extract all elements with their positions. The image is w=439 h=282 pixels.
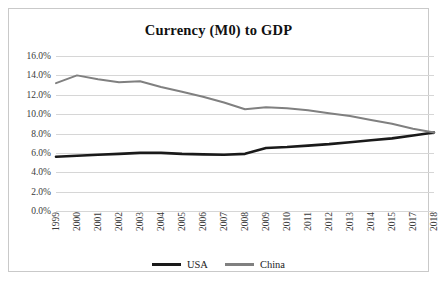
legend-item-china[interactable]: China	[225, 259, 285, 270]
legend-item-usa[interactable]: USA	[152, 259, 208, 270]
x-axis-tick-label: 2012	[324, 212, 334, 231]
legend-line-icon	[225, 263, 254, 266]
x-axis-tick-label: 2005	[177, 212, 187, 231]
x-axis-tick-label: 2007	[219, 212, 229, 231]
chart-frame: Currency (M0) to GDP 16.0%14.0%12.0%10.0…	[8, 8, 429, 272]
y-axis-tick-label: 0.0%	[31, 206, 51, 216]
chart-title: Currency (M0) to GDP	[9, 22, 428, 39]
y-axis-tick-label: 8.0%	[31, 129, 51, 139]
series-lines	[56, 56, 434, 211]
x-axis-tick-label: 2008	[240, 212, 250, 231]
x-axis-tick-label: 2009	[261, 212, 271, 231]
series-line-china	[56, 75, 434, 132]
legend-label: China	[260, 259, 285, 270]
x-axis-tick-label: 2017	[408, 212, 418, 231]
legend-line-icon	[152, 263, 181, 266]
plot-area: 16.0%14.0%12.0%10.0%8.0%6.0%4.0%2.0%0.0%	[56, 56, 434, 211]
legend-label: USA	[187, 259, 208, 270]
chart-legend: USAChina	[9, 259, 428, 270]
x-axis-tick-label: 2013	[345, 212, 355, 231]
y-axis-tick-label: 2.0%	[31, 187, 51, 197]
y-axis-tick-label: 14.0%	[26, 70, 51, 80]
x-axis-tick-label: 1999	[51, 212, 61, 231]
x-axis-tick-label: 2015	[387, 212, 397, 231]
x-axis-labels: 1999200020012002200320042005200620072008…	[56, 212, 434, 257]
y-axis-tick-label: 6.0%	[31, 148, 51, 158]
x-axis-tick-label: 2011	[303, 212, 313, 231]
x-axis-tick-label: 2018	[429, 212, 439, 231]
y-axis-tick-label: 10.0%	[26, 109, 51, 119]
x-axis-tick-label: 2000	[72, 212, 82, 231]
x-axis-tick-label: 2004	[156, 212, 166, 231]
chart-screenshot: Currency (M0) to GDP 16.0%14.0%12.0%10.0…	[0, 0, 439, 282]
x-axis-tick-label: 2001	[93, 212, 103, 231]
x-axis-tick-label: 2010	[282, 212, 292, 231]
series-line-usa	[56, 133, 434, 157]
y-axis-tick-label: 4.0%	[31, 167, 51, 177]
x-axis-tick-label: 2006	[198, 212, 208, 231]
x-axis-tick-label: 2002	[114, 212, 124, 231]
y-axis-tick-label: 12.0%	[26, 90, 51, 100]
y-axis-tick-label: 16.0%	[26, 51, 51, 61]
x-axis-tick-label: 2014	[366, 212, 376, 231]
x-axis-tick-label: 2003	[135, 212, 145, 231]
